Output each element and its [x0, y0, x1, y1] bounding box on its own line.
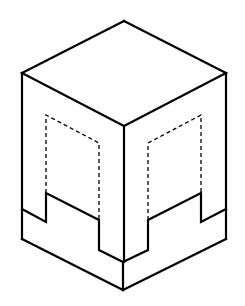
visible-edges [22, 21, 226, 290]
top-face [22, 21, 226, 126]
right-hidden-recess [148, 115, 201, 220]
bottom-left-edge [22, 239, 123, 290]
bottom-right-edge [123, 239, 226, 290]
isometric-block-diagram [0, 0, 245, 306]
left-hidden-recess [46, 115, 99, 220]
right-step-profile [123, 193, 226, 262]
left-step-profile [22, 193, 123, 262]
